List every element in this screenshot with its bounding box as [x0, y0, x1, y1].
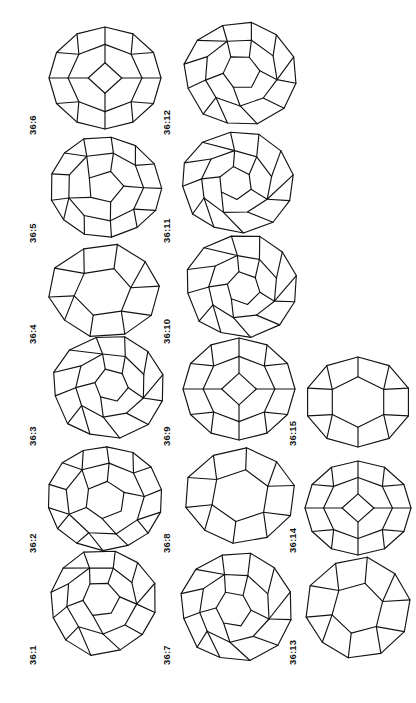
polyhedron-cell — [44, 22, 166, 134]
polyhedron-cell — [300, 552, 416, 664]
polyhedron-diagram-icon — [300, 456, 416, 560]
polyhedron-diagram-icon — [300, 352, 416, 452]
polyhedron-label: 36:8 — [161, 533, 172, 553]
polyhedron-cell — [178, 228, 300, 340]
polyhedron-cell — [44, 546, 166, 664]
polyhedron-cell — [300, 456, 416, 560]
polyhedron-diagram-icon — [178, 444, 300, 550]
polyhedron-cell — [300, 352, 416, 452]
polyhedron-label: 36:10 — [161, 319, 172, 344]
polyhedron-cell — [178, 20, 300, 132]
polyhedron-diagram-icon — [44, 132, 166, 242]
polyhedron-label: 36:2 — [27, 533, 38, 553]
polyhedron-label: 36:12 — [161, 110, 172, 135]
polyhedron-cell — [44, 440, 166, 552]
polyhedron-diagram-icon — [178, 20, 300, 132]
polyhedron-label: 36:9 — [161, 426, 172, 446]
polyhedron-cell — [44, 238, 166, 342]
polyhedron-cell — [178, 333, 300, 445]
polyhedron-diagram-icon — [44, 238, 166, 342]
polyhedron-label: 36:1 — [27, 645, 38, 665]
polyhedron-label: 36:3 — [27, 426, 38, 446]
polyhedron-label: 36:6 — [27, 115, 38, 135]
polyhedron-diagram-icon — [178, 546, 300, 664]
figure-plate: 36:136:236:336:436:536:636:736:836:936:1… — [0, 0, 416, 703]
polyhedron-diagram-icon — [178, 228, 300, 340]
polyhedron-label: 36:7 — [161, 645, 172, 665]
polyhedron-cell — [178, 126, 300, 236]
polyhedron-diagram-icon — [44, 22, 166, 134]
polyhedron-diagram-icon — [44, 440, 166, 552]
polyhedron-label: 36:15 — [287, 421, 298, 446]
polyhedron-label: 36:11 — [161, 218, 172, 243]
polyhedron-diagram-icon — [300, 552, 416, 664]
polyhedron-label: 36:14 — [287, 528, 298, 553]
polyhedron-diagram-icon — [44, 333, 166, 445]
polyhedron-cell — [44, 333, 166, 445]
polyhedron-cell — [178, 546, 300, 664]
polyhedron-cell — [178, 444, 300, 550]
polyhedron-label: 36:4 — [27, 324, 38, 344]
polyhedron-cell — [44, 132, 166, 242]
polyhedron-label: 36:13 — [287, 640, 298, 665]
polyhedron-diagram-icon — [178, 333, 300, 445]
polyhedron-label: 36:5 — [27, 223, 38, 243]
polyhedron-diagram-icon — [178, 126, 300, 236]
polyhedron-diagram-icon — [44, 546, 166, 664]
